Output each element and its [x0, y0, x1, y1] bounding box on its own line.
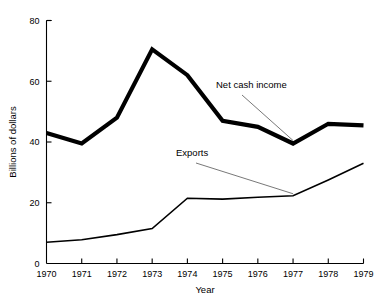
y-axis-title: Billions of dollars: [7, 106, 18, 178]
y-tick-label: 40: [29, 137, 39, 147]
x-tick-label: 1976: [248, 269, 268, 279]
chart-figure: 0204060801970197119721973197419751976197…: [0, 0, 375, 307]
y-tick-label: 0: [34, 259, 39, 269]
y-tick-label: 60: [29, 77, 39, 87]
annotation-label-exports: Exports: [176, 147, 208, 158]
x-tick-label: 1975: [213, 269, 233, 279]
x-tick-label: 1978: [318, 269, 338, 279]
y-tick-label: 20: [29, 198, 39, 208]
x-tick-label: 1973: [142, 269, 162, 279]
x-tick-label: 1979: [353, 269, 373, 279]
annotation-leader-line: [196, 163, 293, 194]
annotation-label-net-cash-income: Net cash income: [216, 79, 287, 90]
x-tick-label: 1977: [283, 269, 303, 279]
x-tick-label: 1971: [72, 269, 92, 279]
x-axis-title: Year: [195, 284, 214, 295]
series-line-net-cash-income: [47, 49, 364, 143]
x-tick-label: 1972: [107, 269, 127, 279]
data-series: [47, 49, 364, 242]
y-tick-label: 80: [29, 16, 39, 26]
x-tick-label: 1970: [36, 269, 56, 279]
x-tick-label: 1974: [177, 269, 197, 279]
line-chart-svg: 0204060801970197119721973197419751976197…: [0, 0, 375, 307]
series-line-exports: [47, 163, 364, 242]
